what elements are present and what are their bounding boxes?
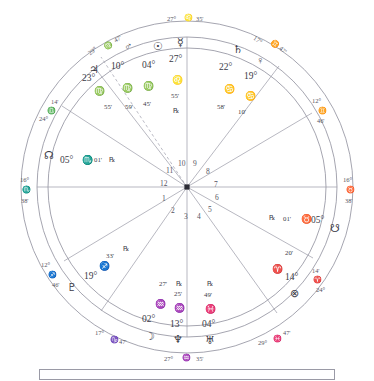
cusp-5-degree: 29° xyxy=(258,340,267,347)
cusp-asc-minute: 38' xyxy=(21,198,28,204)
planet-mars-icon: ♂ xyxy=(124,41,132,52)
planet-mercury-sign-leo-icon: ♌ xyxy=(172,76,183,85)
planet-pluto-retrograde: ℞ xyxy=(123,246,129,253)
house-number-4: 4 xyxy=(197,213,201,221)
cusp-3-minute: 47' xyxy=(119,339,126,345)
planet-jupiter-minute: 55' xyxy=(104,104,112,111)
house-number-5: 5 xyxy=(208,206,212,214)
planet-pluto-icon: ♇ xyxy=(67,282,77,293)
planet-northnode-retrograde: ℞ xyxy=(109,157,115,164)
cusp-asc-degree: 16° xyxy=(20,177,29,184)
cusp-3-sign-capricorn-icon: ♑ xyxy=(110,337,119,344)
cusp-12-degree: 24° xyxy=(39,116,48,123)
planet-neptune-icon: ♆ xyxy=(173,334,183,345)
planet-jupiter-degree: 23° xyxy=(82,74,95,84)
planet-saturn-minute: 58' xyxy=(217,104,225,111)
house-number-2: 2 xyxy=(171,207,175,215)
bottom-info-panel xyxy=(39,369,335,380)
cusp-asc-sign-scorpio-icon: ♏ xyxy=(22,187,31,194)
house-number-7: 7 xyxy=(214,181,218,189)
planet-pluto-sign-sagittarius-icon: ♐ xyxy=(99,262,110,271)
house-number-1: 1 xyxy=(162,195,166,203)
house-number-12: 12 xyxy=(160,180,168,188)
planet-saturn-icon: ♄ xyxy=(233,44,243,55)
planet-mars-minute: 59' xyxy=(125,104,133,111)
cusp-dsc-degree: 16° xyxy=(343,177,352,184)
planet-sun-minute: 45' xyxy=(143,101,151,108)
cusp-8-degree: 12° xyxy=(312,98,321,105)
cusp-2-minute: 46' xyxy=(52,282,59,288)
cusp-8-sign-gemini-icon: ♊ xyxy=(318,108,327,115)
planet-mars-degree: 10° xyxy=(111,62,124,72)
cusp-2-degree: 12° xyxy=(41,262,50,269)
planet-venus-minute: 10' xyxy=(238,109,246,116)
house-number-6: 6 xyxy=(215,194,219,202)
planet-moon-icon: ☽ xyxy=(145,331,155,342)
chart-wheel xyxy=(0,0,374,381)
planet-mercury-retrograde: ℞ xyxy=(173,108,179,115)
planet-uranus-retrograde: ℞ xyxy=(207,281,213,288)
house-number-10: 10 xyxy=(178,160,186,168)
house-number-3: 3 xyxy=(184,213,188,221)
planet-pluto-minute: 33' xyxy=(106,253,114,260)
planet-northnode-degree: 05° xyxy=(60,156,73,166)
house-number-11: 11 xyxy=(166,167,173,175)
planet-southnode-retrograde: ℞ xyxy=(269,215,275,222)
planet-northnode-minute: 01' xyxy=(94,157,102,164)
planet-pluto-degree: 19° xyxy=(84,272,97,282)
planet-jupiter-sign-virgo-icon: ♍ xyxy=(94,87,105,96)
planet-mercury-degree: 27° xyxy=(169,55,182,65)
planet-neptune-minute: 25' xyxy=(174,291,182,298)
planet-venus-degree: 19° xyxy=(244,72,257,82)
planet-mercury-icon: ☿ xyxy=(177,37,184,48)
planet-moon-minute: 27' xyxy=(159,281,167,288)
planet-northnode-icon: ☊ xyxy=(44,150,54,161)
planet-moon-retrograde: ℞ xyxy=(176,281,182,288)
planet-southnode-icon: ☋ xyxy=(330,223,340,234)
house-number-9: 9 xyxy=(193,160,197,168)
planet-fortune-icon: ⊗ xyxy=(290,288,299,299)
cusp-ic-degree: 27° xyxy=(164,356,173,363)
cusp-12-minute: 14' xyxy=(51,99,58,105)
center-dot xyxy=(184,184,189,189)
cusp-mc-sign-leo-icon: ♌ xyxy=(184,15,193,22)
planet-moon-degree: 02° xyxy=(142,315,155,325)
cusp-6-minute: 14' xyxy=(312,268,319,274)
planet-sun-sign-virgo-icon: ♍ xyxy=(143,82,154,91)
planet-southnode-degree: 05° xyxy=(311,216,324,226)
planet-uranus-minute: 49' xyxy=(204,292,212,299)
planet-fortune-minute: 20' xyxy=(285,250,293,257)
cusp-6-degree: 24° xyxy=(316,287,325,294)
planet-uranus-sign-pisces-icon: ♓ xyxy=(205,305,216,314)
cusp-3-degree: 17° xyxy=(95,330,104,337)
cusp-5-minute: 47' xyxy=(283,330,290,336)
planet-neptune-degree: 13° xyxy=(170,320,183,330)
planet-mars-sign-virgo-icon: ♍ xyxy=(122,84,133,93)
cusp-12-sign-libra-icon: ♎ xyxy=(47,108,56,115)
planet-venus-sign-cancer-icon: ♋ xyxy=(245,92,256,101)
planet-uranus-icon: ♅ xyxy=(205,335,215,346)
cusp-mc-degree: 27° xyxy=(167,16,176,23)
planet-uranus-degree: 04° xyxy=(202,320,215,330)
planet-mercury-minute: 55' xyxy=(171,93,179,100)
cusp-8-minute: 46' xyxy=(317,118,324,124)
cusp-5-sign-pisces-icon: ♓ xyxy=(273,336,282,343)
planet-sun-degree: 04° xyxy=(142,61,155,71)
planet-fortune-degree: 14° xyxy=(285,273,298,283)
planet-moon-sign-aquarius-icon: ♒ xyxy=(155,300,166,309)
planet-neptune-sign-aquarius-icon: ♒ xyxy=(174,304,185,313)
planet-saturn-degree: 22° xyxy=(219,63,232,73)
cusp-ic-minute: 35' xyxy=(196,356,203,362)
cusp-ic-sign-aquarius-icon: ♒ xyxy=(182,355,191,362)
cusp-mc-minute: 35' xyxy=(196,16,203,22)
cusp-2-sign-sagittarius-icon: ♐ xyxy=(48,272,57,279)
house-number-8: 8 xyxy=(206,168,210,176)
cusp-dsc-minute: 38' xyxy=(345,198,352,204)
planet-southnode-minute: 01' xyxy=(283,216,291,223)
planet-venus-icon: ♀ xyxy=(256,55,264,66)
cusp-6-sign-aries-icon: ♈ xyxy=(313,277,322,284)
planet-saturn-sign-cancer-icon: ♋ xyxy=(224,85,235,94)
planet-fortune-sign-aries-icon: ♈ xyxy=(272,265,283,274)
planet-northnode-sign-scorpio-icon: ♏ xyxy=(82,156,93,165)
cusp-dsc-sign-taurus-icon: ♉ xyxy=(346,187,355,194)
